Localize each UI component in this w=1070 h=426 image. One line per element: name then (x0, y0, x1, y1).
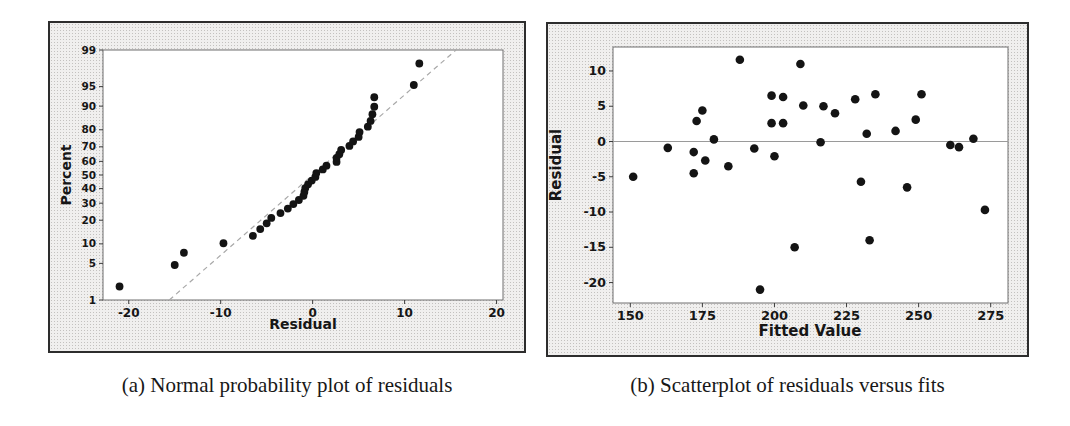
data-point (415, 60, 423, 68)
data-point (724, 162, 733, 171)
data-point (917, 90, 926, 99)
panel-residuals-versus-fits: Fitted Value Residual 150175200225250275… (546, 22, 1029, 357)
x-axis-title: Residual (269, 316, 337, 332)
data-point (871, 90, 880, 99)
y-tick-label: 99 (81, 44, 96, 56)
x-tick-label: 250 (905, 308, 932, 323)
y-tick-label: 5 (89, 257, 96, 269)
data-point (710, 135, 719, 144)
plot-area (613, 47, 1008, 303)
data-point (356, 128, 364, 136)
data-point (911, 115, 920, 124)
caption-b: (b) Scatterplot of residuals versus fits (546, 373, 1029, 398)
y-tick-label: 90 (81, 100, 96, 112)
data-point (981, 206, 990, 215)
x-tick-label: 275 (977, 308, 1004, 323)
y-tick-label: 20 (81, 214, 96, 226)
x-tick-label: 20 (488, 306, 505, 320)
x-tick-label: 175 (689, 308, 716, 323)
data-point (249, 232, 257, 240)
data-point (220, 239, 228, 247)
x-axis-title: Fitted Value (759, 322, 862, 340)
data-point (370, 103, 378, 111)
y-tick-label: 60 (81, 155, 96, 167)
data-point (337, 146, 345, 154)
data-point (779, 93, 788, 102)
data-point (277, 209, 285, 217)
y-tick-label: 80 (81, 123, 96, 135)
data-point (116, 283, 124, 291)
normal-probability-plot-canvas: Residual Percent -20-1001020151020304050… (50, 23, 524, 351)
y-tick-label: 70 (81, 140, 96, 152)
x-tick-label: 150 (617, 308, 644, 323)
data-point (779, 119, 788, 128)
data-point (851, 95, 860, 104)
data-point (701, 156, 710, 165)
data-point (256, 225, 264, 233)
data-point (790, 243, 799, 252)
data-point (756, 285, 765, 294)
data-point (796, 60, 805, 69)
y-tick-label: 10 (81, 237, 96, 249)
caption-a: (a) Normal probability plot of residuals (48, 373, 526, 398)
data-point (689, 148, 698, 157)
data-point (770, 152, 779, 161)
data-point (750, 144, 759, 153)
residuals-versus-fits-canvas: Fitted Value Residual 150175200225250275… (548, 24, 1027, 355)
data-point (663, 144, 672, 153)
x-tick-label: 225 (833, 308, 860, 323)
y-axis-title: Percent (58, 144, 74, 205)
y-tick-label: -5 (592, 169, 606, 184)
data-point (831, 109, 840, 118)
data-point (323, 162, 331, 170)
y-tick-label: 1 (89, 294, 96, 306)
data-point (736, 55, 745, 64)
y-tick-label: 50 (81, 169, 96, 181)
x-tick-label: 0 (308, 306, 316, 320)
data-point (799, 101, 808, 110)
data-point (629, 172, 638, 181)
data-point (857, 177, 866, 186)
y-axis-title: Residual (548, 129, 565, 201)
data-point (692, 117, 701, 126)
data-point (698, 106, 707, 115)
data-point (955, 143, 964, 152)
data-point (862, 129, 871, 138)
x-tick-label: 200 (761, 308, 788, 323)
y-tick-label: 5 (597, 98, 606, 113)
data-point (180, 249, 188, 257)
data-point (819, 102, 828, 111)
figure: Residual Percent -20-1001020151020304050… (0, 0, 1070, 426)
panel-normal-probability-plot: Residual Percent -20-1001020151020304050… (48, 21, 526, 353)
data-point (767, 91, 776, 100)
data-point (410, 81, 418, 89)
data-point (946, 141, 955, 150)
y-tick-label: 40 (81, 182, 96, 194)
y-tick-label: 95 (81, 80, 96, 92)
y-tick-label: -15 (583, 239, 606, 254)
y-tick-label: 10 (589, 63, 607, 78)
data-point (267, 214, 275, 222)
data-point (369, 110, 377, 118)
data-point (171, 261, 179, 269)
x-tick-label: 10 (396, 306, 413, 320)
data-point (767, 119, 776, 128)
data-point (367, 117, 375, 125)
y-tick-label: -10 (583, 204, 606, 219)
data-point (891, 127, 900, 136)
data-point (370, 93, 378, 101)
y-tick-label: 30 (81, 197, 96, 209)
data-point (903, 183, 912, 192)
x-tick-label: -20 (118, 306, 140, 320)
data-point (689, 169, 698, 178)
x-tick-label: -10 (210, 306, 232, 320)
data-point (969, 134, 978, 143)
plot-area (103, 50, 503, 300)
data-point (865, 236, 874, 245)
y-tick-label: 0 (597, 134, 606, 149)
y-tick-label: -20 (583, 275, 606, 290)
data-point (816, 138, 825, 147)
